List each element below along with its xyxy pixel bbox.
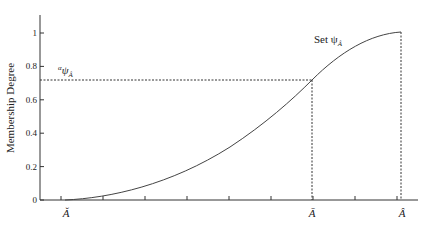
y-tick-0.2: 0.2 [26, 162, 37, 172]
x-ticks [61, 196, 397, 200]
y-tick-labels: 0 0.2 0.4 0.6 0.8 1 [26, 28, 38, 205]
y-tick-0: 0 [33, 195, 38, 205]
alpha-psi-label: αψÂ [58, 64, 74, 79]
y-tick-1: 1 [33, 28, 38, 38]
y-axis-title: Membership Degree [4, 63, 16, 153]
set-psi-label: Set ψÂ [314, 33, 343, 48]
y-tick-0.8: 0.8 [26, 61, 38, 71]
x-label-a-check: Ǎ [62, 207, 70, 219]
membership-curve [65, 32, 401, 200]
membership-chart: 0 0.2 0.4 0.6 0.8 1 Membership Degree Se… [0, 0, 435, 231]
y-tick-0.4: 0.4 [26, 128, 38, 138]
x-label-a-hat: Â [398, 207, 406, 219]
y-ticks [40, 33, 44, 200]
y-tick-0.6: 0.6 [26, 95, 38, 105]
x-label-a-bar: Ā [308, 207, 316, 219]
